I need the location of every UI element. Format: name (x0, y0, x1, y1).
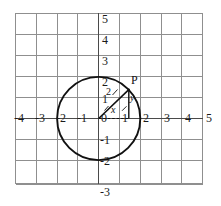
horizontal-leg-length-label: x (111, 105, 115, 115)
x-tick-label--2: -2 (56, 112, 66, 124)
y-tick-label--2: -2 (100, 155, 110, 167)
vertical-leg-length-label: y (130, 93, 134, 103)
math-figure: -4 -3 -2 -1 0 1 2 3 4 5 5 4 3 2 1 -1 -2 … (0, 0, 221, 206)
x-tick-label-3: 3 (164, 112, 170, 124)
y-tick-label-3: 3 (102, 55, 108, 67)
x-tick-label--4: -4 (14, 112, 24, 124)
x-tick-label-4: 4 (185, 112, 191, 124)
y-tick-label-4: 4 (102, 34, 108, 46)
y-tick-label--1: -1 (100, 134, 110, 146)
x-tick-label-5: 5 (206, 112, 212, 124)
x-tick-label--3: -3 (35, 112, 45, 124)
x-tick-label-0: 0 (101, 112, 107, 124)
coordinate-plot-svg (0, 0, 221, 206)
y-tick-label--3: -3 (100, 186, 110, 198)
x-tick-label--1: -1 (77, 112, 87, 124)
point-p-marker (128, 89, 130, 91)
hypotenuse-length-label: 2 (106, 87, 111, 97)
x-tick-label-2: 2 (143, 112, 149, 124)
point-p-label: P (131, 74, 138, 86)
y-tick-label-5: 5 (102, 13, 108, 25)
x-tick-label-1: 1 (122, 112, 128, 124)
